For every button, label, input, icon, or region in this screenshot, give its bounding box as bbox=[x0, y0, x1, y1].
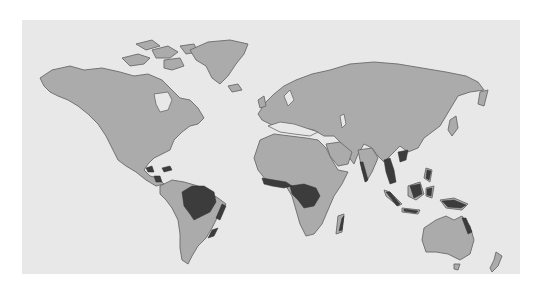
tasmania bbox=[454, 264, 460, 270]
iceland bbox=[228, 84, 242, 92]
map-canvas bbox=[22, 20, 520, 274]
kamchatka bbox=[478, 90, 488, 106]
japan bbox=[448, 116, 458, 136]
greenland bbox=[190, 40, 248, 84]
arctic-islands bbox=[122, 40, 198, 70]
forest-caribbean bbox=[162, 166, 172, 172]
new-zealand bbox=[490, 252, 502, 272]
forest-sumatra bbox=[386, 192, 400, 206]
north-america bbox=[40, 66, 204, 186]
british-isles bbox=[258, 96, 266, 108]
world-map bbox=[22, 20, 520, 274]
